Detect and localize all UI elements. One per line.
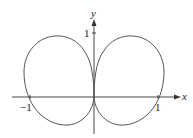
x-tick-label-pos-one: 1 <box>155 101 161 113</box>
curve-right-lobe <box>94 36 164 125</box>
y-tick-label-one: 1 <box>84 27 90 39</box>
x-axis-arrow-icon <box>174 95 181 100</box>
polar-curve-plot: y x −1 1 1 <box>0 0 193 138</box>
x-axis-label: x <box>181 90 187 102</box>
curve-left-lobe <box>24 36 94 125</box>
x-tick-label-neg-one: −1 <box>20 101 32 113</box>
y-axis-arrow-icon <box>92 19 97 26</box>
y-axis-label: y <box>90 7 96 19</box>
